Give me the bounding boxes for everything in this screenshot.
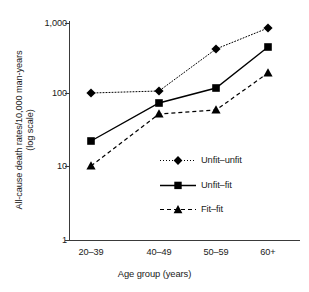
legend-samples	[160, 156, 196, 213]
series-unfit-unfit	[86, 23, 272, 97]
x-tick-60plus: 60+	[260, 247, 275, 258]
chart-figure: All-cause death rates/10,000 man-years (…	[0, 0, 309, 292]
legend-sample-unfit-unfit	[160, 156, 196, 165]
series-unfit-fit-line	[91, 47, 268, 141]
series-fit-fit-markers	[86, 68, 272, 169]
x-tick-40-49: 40–49	[146, 247, 171, 258]
axis-spines	[69, 21, 300, 241]
series-unfit-fit	[87, 43, 272, 145]
series-fit-fit	[86, 68, 272, 169]
series-fit-fit-line	[91, 73, 268, 166]
x-axis-title: Age group (years)	[0, 268, 309, 279]
series-unfit-unfit-line	[91, 28, 268, 93]
x-tick-20-39: 20–39	[78, 247, 103, 258]
x-tick-50-59: 50–59	[203, 247, 228, 258]
legend-sample-unfit-fit	[160, 182, 196, 189]
series-unfit-fit-markers	[87, 43, 272, 145]
legend-sample-fit-fit	[160, 205, 196, 213]
x-axis-tick-labels: 20–39 40–49 50–59 60+	[0, 247, 309, 261]
series-unfit-unfit-markers	[86, 23, 272, 97]
y-axis-ticks	[65, 24, 69, 241]
